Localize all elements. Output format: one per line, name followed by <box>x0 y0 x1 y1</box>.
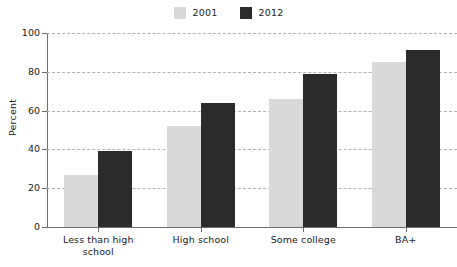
x-tick-label-line1: BA+ <box>355 234 457 246</box>
gridline-100 <box>47 33 457 34</box>
y-tick-label-100: 100 <box>4 28 40 38</box>
y-tick-mark-60 <box>42 111 47 112</box>
y-tick-mark-40 <box>42 149 47 150</box>
x-tick-mark-1 <box>201 227 202 232</box>
x-tick-label-1: High school <box>150 234 253 246</box>
x-tick-mark-2 <box>303 227 304 232</box>
plot-area <box>47 33 457 227</box>
bar-2012-group-1 <box>201 103 235 227</box>
gridline-0 <box>47 227 457 228</box>
y-axis-tick-labels: 020406080100 <box>0 0 40 267</box>
bar-2012-group-2 <box>303 74 337 227</box>
x-tick-label-line1: High school <box>150 234 253 246</box>
bar-2001-group-3 <box>372 62 406 227</box>
y-tick-label-40: 40 <box>4 145 40 155</box>
bar-2001-group-1 <box>167 126 201 227</box>
y-tick-label-0: 0 <box>4 222 40 232</box>
y-tick-mark-80 <box>42 72 47 73</box>
y-tick-label-60: 60 <box>4 106 40 116</box>
y-tick-mark-0 <box>42 227 47 228</box>
x-tick-label-0: Less than highschool <box>47 234 150 257</box>
x-tick-label-line2: school <box>47 246 150 258</box>
x-tick-label-3: BA+ <box>355 234 457 246</box>
bar-2012-group-0 <box>98 151 132 227</box>
x-tick-label-2: Some college <box>252 234 355 246</box>
x-tick-mark-3 <box>406 227 407 232</box>
y-tick-mark-20 <box>42 188 47 189</box>
x-tick-label-line1: Less than high <box>47 234 150 246</box>
bar-2001-group-2 <box>269 99 303 227</box>
y-tick-label-20: 20 <box>4 183 40 193</box>
bar-2001-group-0 <box>64 175 98 227</box>
x-tick-label-line1: Some college <box>252 234 355 246</box>
grouped-bar-chart: Percent 020406080100 Less than highschoo… <box>0 0 457 267</box>
y-tick-mark-100 <box>42 33 47 34</box>
y-tick-label-80: 80 <box>4 67 40 77</box>
bar-2012-group-3 <box>406 50 440 227</box>
x-tick-mark-0 <box>98 227 99 232</box>
